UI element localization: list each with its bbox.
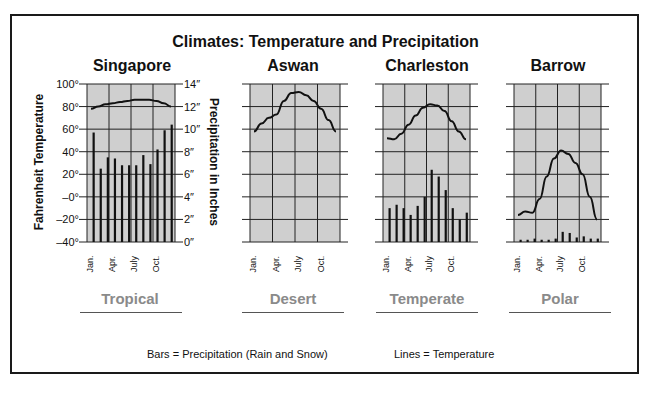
precip-bar xyxy=(597,239,599,242)
precip-bar xyxy=(445,190,447,242)
precip-bar xyxy=(100,169,102,242)
precip-bar xyxy=(548,240,550,242)
precip-bar xyxy=(541,240,543,242)
precip-bar xyxy=(107,157,109,242)
svg-text:40°: 40° xyxy=(62,146,79,158)
svg-text:20°: 20° xyxy=(62,168,79,180)
precip-bar xyxy=(142,155,144,242)
climate-label-desert: Desert xyxy=(243,290,343,307)
precip-bar xyxy=(403,208,405,242)
svg-text:–40°: –40° xyxy=(56,236,79,248)
svg-text:8″: 8″ xyxy=(184,146,194,158)
svg-text:–20°: –20° xyxy=(56,213,79,225)
precip-bar xyxy=(114,158,116,242)
svg-text:2″: 2″ xyxy=(184,213,194,225)
svg-text:Apr.: Apr. xyxy=(534,256,544,272)
precip-bar xyxy=(389,208,391,242)
svg-text:60°: 60° xyxy=(62,123,79,135)
precip-bar xyxy=(396,205,398,242)
svg-text:Apr.: Apr. xyxy=(271,256,281,272)
svg-text:July: July xyxy=(555,256,565,273)
svg-text:July: July xyxy=(129,256,139,273)
climate-underline xyxy=(509,312,611,313)
precip-bar xyxy=(128,165,130,242)
svg-text:–0°: –0° xyxy=(62,191,79,203)
precip-bar xyxy=(583,236,585,242)
precip-bar xyxy=(466,213,468,242)
precip-bar xyxy=(417,206,419,242)
precip-bar xyxy=(164,130,166,242)
svg-text:100°: 100° xyxy=(56,78,79,90)
svg-text:12″: 12″ xyxy=(184,101,200,113)
precip-bar xyxy=(520,240,522,242)
precip-bar xyxy=(590,239,592,242)
precip-bar xyxy=(527,240,529,242)
precip-bar xyxy=(569,233,571,242)
svg-text:6″: 6″ xyxy=(184,168,194,180)
precip-bar xyxy=(121,165,123,242)
precip-bar xyxy=(431,170,433,242)
precip-bar xyxy=(555,239,557,242)
chart-panel-charleston: Jan.Apr.JulyOct. xyxy=(375,84,478,273)
precip-bar xyxy=(149,164,151,242)
precip-bar xyxy=(135,165,137,242)
precip-bar xyxy=(424,197,426,242)
svg-text:Apr.: Apr. xyxy=(403,256,413,272)
chart-panel-singapore: Jan.Apr.JulyOct. xyxy=(79,84,183,273)
svg-text:Oct.: Oct. xyxy=(151,256,161,273)
climate-label-temperate: Temperate xyxy=(377,290,477,307)
svg-text:4″: 4″ xyxy=(184,191,194,203)
precip-bar xyxy=(93,133,95,242)
svg-text:Oct.: Oct. xyxy=(316,256,326,273)
svg-text:July: July xyxy=(293,256,303,273)
precip-bar xyxy=(459,219,461,242)
precip-bar xyxy=(438,177,440,242)
precip-bar xyxy=(562,232,564,242)
precip-bar xyxy=(171,125,173,242)
climate-underline xyxy=(376,312,478,313)
svg-text:14″: 14″ xyxy=(184,78,200,90)
svg-text:Oct.: Oct. xyxy=(577,256,587,273)
chart-panel-aswan: Jan.Apr.JulyOct. xyxy=(242,84,348,273)
svg-text:Jan.: Jan. xyxy=(85,255,95,272)
climate-underline xyxy=(242,312,344,313)
svg-text:July: July xyxy=(424,256,434,273)
precip-bar xyxy=(452,208,454,242)
precip-bar xyxy=(410,215,412,242)
svg-text:Jan.: Jan. xyxy=(248,255,258,272)
svg-text:80°: 80° xyxy=(62,101,79,113)
precip-bar xyxy=(534,239,536,242)
climate-label-polar: Polar xyxy=(510,290,610,307)
svg-text:Jan.: Jan. xyxy=(512,255,522,272)
climate-charts: Jan.Apr.JulyOct.Jan.Apr.JulyOct.Jan.Apr.… xyxy=(0,0,651,394)
climate-underline xyxy=(80,312,182,313)
chart-panel-barrow: Jan.Apr.JulyOct. xyxy=(506,84,609,273)
svg-text:Apr.: Apr. xyxy=(107,256,117,272)
svg-text:Jan.: Jan. xyxy=(381,255,391,272)
svg-text:Oct.: Oct. xyxy=(446,256,456,273)
legend-lines: Lines = Temperature xyxy=(394,348,494,360)
precip-bar xyxy=(156,149,158,242)
svg-text:10″: 10″ xyxy=(184,123,200,135)
legend-bars: Bars = Precipitation (Rain and Snow) xyxy=(147,348,328,360)
precip-bar xyxy=(576,237,578,242)
climate-label-tropical: Tropical xyxy=(80,290,180,307)
svg-text:0″: 0″ xyxy=(184,236,194,248)
